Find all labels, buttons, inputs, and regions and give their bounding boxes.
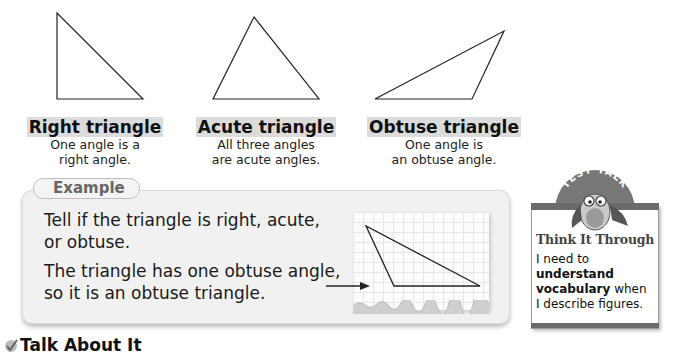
check-icon: [0, 0, 674, 361]
talk-about-heading: Talk About It: [20, 335, 142, 355]
